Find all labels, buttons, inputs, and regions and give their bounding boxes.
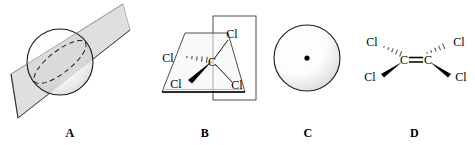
- atom-label-c-center-b: C: [208, 55, 216, 69]
- atom-label-cl-lower-right-b: Cl: [231, 78, 243, 92]
- atom-label-c-right-d: C: [424, 53, 432, 67]
- panel-a-label: A: [0, 126, 140, 141]
- atom-label-cl-lower-left-d: Cl: [364, 70, 376, 84]
- atom-label-c-left-d: C: [400, 53, 408, 67]
- chemistry-figure: A: [0, 0, 475, 145]
- panel-c: C: [262, 0, 354, 145]
- bond-solid-wedge-lower-left-d: [381, 62, 402, 78]
- panel-d-label: D: [354, 126, 475, 141]
- panel-b-label: B: [140, 126, 270, 141]
- panel-b: Cl Cl Cl Cl C B: [140, 0, 270, 145]
- atom-label-cl-upper-right-d: Cl: [453, 35, 465, 49]
- atom-label-cl-lower-right-d: Cl: [455, 70, 467, 84]
- bond-solid-wedge-lower-right-d: [430, 62, 451, 78]
- atom-label-cl-upper-left-b: Cl: [162, 51, 174, 65]
- bond-hashed-wedge-upper-left-d: [383, 44, 402, 56]
- atom-label-cl-upper-left-d: Cl: [366, 35, 378, 49]
- atom-label-cl-lower-left-b: Cl: [170, 77, 182, 91]
- panel-a: A: [0, 0, 140, 145]
- center-of-symmetry-dot-c: [304, 55, 309, 60]
- panel-c-drawing: [262, 0, 354, 145]
- panel-c-label: C: [262, 126, 354, 141]
- panel-d: Cl Cl C C Cl Cl D: [354, 0, 475, 145]
- panel-d-drawing: Cl Cl C C Cl Cl: [354, 0, 475, 145]
- panel-a-drawing: [0, 0, 140, 145]
- atom-label-cl-upper-right-b: Cl: [226, 27, 238, 41]
- panel-b-drawing: Cl Cl Cl Cl C: [140, 0, 270, 145]
